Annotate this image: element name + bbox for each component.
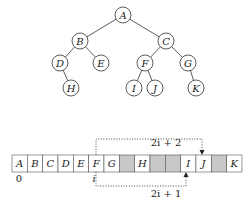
tree-node-f: F [137,55,153,71]
node-label: B [75,36,83,47]
node-label: E [96,58,105,69]
tree-node-b: B [72,33,88,49]
node-label: J [151,83,158,94]
array-cell-13 [211,155,226,172]
cell-value: B [30,158,38,169]
arrowhead-up-icon [184,172,189,177]
node-label: G [184,58,192,69]
node-label: D [55,58,64,69]
left-child-formula: 2i + 1 [151,188,182,199]
cell-value: H [137,158,147,169]
array-cell-9 [150,155,165,172]
arrowhead-down-icon [200,150,205,155]
tree-node-a: A [115,7,131,23]
node-label: H [66,83,76,94]
tree-node-g: G [180,55,196,71]
array-cell-4: E [73,155,88,172]
tree-node-j: J [147,80,163,96]
array-cell-5: F [89,155,104,172]
cell-value: G [108,158,116,169]
tree-node-e: E [93,55,109,71]
heap-diagram: ABCDEFGHIJK ABCDEFGHIJK 2i + 2 2i + 1 0 … [0,0,251,204]
tree-node-i: I [126,80,142,96]
cell-value: F [92,158,101,169]
array-cell-10 [165,155,180,172]
tree-node-h: H [63,80,79,96]
array-cell-1: B [27,155,42,172]
cell-value: J [200,158,207,169]
cell-value: E [76,158,85,169]
array-cell-6: G [104,155,119,172]
cell-value: C [46,158,54,169]
node-label: A [118,10,126,21]
array-cell-14: K [227,155,242,172]
array-cell-3: D [58,155,73,172]
left-child-arrow [96,172,186,186]
array-representation: ABCDEFGHIJK [12,155,242,172]
array-cell-12: J [196,155,211,172]
cell-value: D [61,158,70,169]
tree-node-c: C [158,33,174,49]
array-cell-2: C [43,155,58,172]
array-cell-0: A [12,155,27,172]
array-cell-8: H [135,155,150,172]
tree-node-k: K [188,80,204,96]
node-label: F [141,58,150,69]
array-cell-11: I [181,155,196,172]
right-child-arrow [96,139,202,155]
tree-nodes: ABCDEFGHIJK [52,7,204,96]
index-i-label: i [92,173,95,184]
node-label: K [191,83,200,94]
node-label: C [162,36,170,47]
index-zero-label: 0 [16,173,22,184]
tree-edges [60,15,196,88]
cell-value: K [230,158,239,169]
array-cell-7 [119,155,134,172]
tree-node-d: D [52,55,68,71]
cell-value: A [15,158,23,169]
